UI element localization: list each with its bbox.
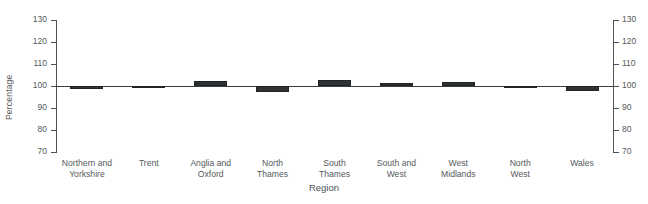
- y-axis-tick-label-left: 90: [25, 103, 47, 112]
- y-axis-tick: [51, 42, 56, 43]
- y-axis-tick-label-left: 100: [25, 81, 47, 90]
- x-axis-category-label: West Midlands: [427, 158, 489, 179]
- y-axis-tick-label-right: 110: [622, 59, 644, 68]
- y-axis-title: Percentage: [2, 52, 16, 142]
- y-axis-tick: [614, 86, 619, 87]
- y-axis-tick: [614, 64, 619, 65]
- y-axis-tick-label-left: 130: [25, 15, 47, 24]
- y-axis-tick-label-right: 70: [622, 147, 644, 156]
- y-axis-tick-label-left: 120: [25, 37, 47, 46]
- x-axis-category-label: North West: [489, 158, 551, 179]
- y-axis-tick-label-right: 120: [622, 37, 644, 46]
- x-axis-category-label: North Thames: [242, 158, 304, 179]
- y-axis-tick-label-right: 80: [622, 125, 644, 134]
- y-axis-tick-label-right: 90: [622, 103, 644, 112]
- bar: [566, 86, 599, 91]
- y-axis-tick-label-right: 130: [622, 15, 644, 24]
- bar: [132, 86, 165, 88]
- bar: [256, 86, 289, 92]
- x-axis-category-label: South and West: [365, 158, 427, 179]
- bar: [70, 86, 103, 89]
- y-axis-tick: [614, 20, 619, 21]
- bar: [380, 83, 413, 86]
- bar: [442, 82, 475, 86]
- y-axis-tick: [51, 152, 56, 153]
- y-axis-tick-label-left: 80: [25, 125, 47, 134]
- x-axis-title: Region: [0, 182, 648, 193]
- y-axis-tick: [614, 130, 619, 131]
- y-axis-tick: [51, 130, 56, 131]
- y-axis-tick: [614, 152, 619, 153]
- x-axis-category-label: Anglia and Oxford: [180, 158, 242, 179]
- x-axis-category-label: South Thames: [304, 158, 366, 179]
- y-axis-tick: [614, 108, 619, 109]
- x-axis-category-label: Northern and Yorkshire: [56, 158, 118, 179]
- x-axis-category-label: Wales: [551, 158, 613, 169]
- x-axis-category-label: Trent: [118, 158, 180, 169]
- y-axis-tick: [614, 42, 619, 43]
- y-axis-tick-label-right: 100: [622, 81, 644, 90]
- y-axis-tick-label-left: 110: [25, 59, 47, 68]
- bar: [318, 80, 351, 86]
- y-axis-tick-label-left: 70: [25, 147, 47, 156]
- y-axis-tick: [51, 64, 56, 65]
- chart-container: Percentage Region 7070808090901001001101…: [0, 0, 648, 204]
- bar: [504, 86, 537, 88]
- bar: [194, 81, 227, 87]
- y-axis-tick: [51, 20, 56, 21]
- y-axis-tick: [51, 108, 56, 109]
